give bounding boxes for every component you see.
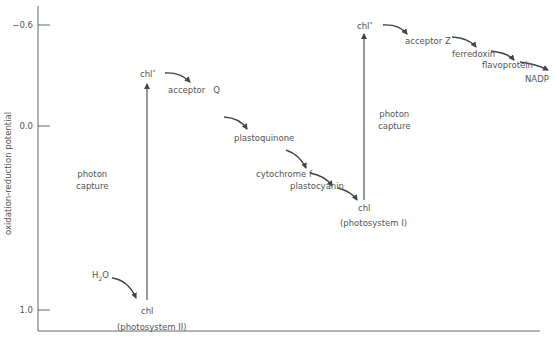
psii-name: (photosystem II) [117, 323, 187, 332]
water-label: H2O [92, 271, 109, 282]
tick-label-neg-0-6: −0.6 [9, 21, 33, 30]
psi-photon-capture: photon capture [378, 108, 411, 132]
psii-chl-excited: chl* [140, 70, 155, 79]
z-scheme-diagram: oxidation-reduction potential −0.6 0.0 1… [0, 0, 555, 338]
tick-label-0-0: 0.0 [9, 122, 33, 131]
acceptor-q-label: acceptor Q [168, 86, 220, 95]
nadp-label: NADP [525, 75, 549, 84]
psi-chl-excited: chl* [357, 22, 372, 31]
flavoprotein-label: flavoprotein [482, 61, 533, 70]
psii-chl-ground: chl [141, 307, 153, 316]
plastoquinone-label: plastoquinone [234, 134, 294, 143]
psi-chl-ground: chl [358, 204, 370, 213]
cytochrome-f-label: cytochrome f [256, 170, 312, 179]
psi-name: (photosystem I) [340, 219, 407, 228]
tick-label-1-0: 1.0 [9, 306, 33, 315]
plastocyanin-label: plastocyanin [290, 182, 344, 191]
ferredoxin-label: ferredoxin [452, 50, 495, 59]
psii-photon-capture: photon capture [76, 168, 109, 192]
acceptor-z-label: acceptor Z [405, 37, 451, 46]
